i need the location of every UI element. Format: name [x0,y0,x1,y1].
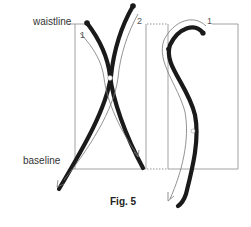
s-stroke-number: 1 [207,16,212,26]
x-stroke-1-number: 1 [80,30,85,40]
figure-caption: Fig. 5 [110,196,136,207]
s-upper-break [166,47,170,51]
x-stroke-1-start-dot [84,20,90,26]
diagram-canvas [0,0,251,227]
waistline-label: waistline [33,16,71,27]
s-lower-break [191,129,195,133]
x-stroke-2-start-dot [130,3,136,9]
s-start-dot [200,30,205,35]
x-cross-point [108,76,113,81]
x-stroke-2-number: 2 [137,16,142,26]
baseline-label: baseline [23,155,60,166]
s-guide-box [168,24,238,169]
